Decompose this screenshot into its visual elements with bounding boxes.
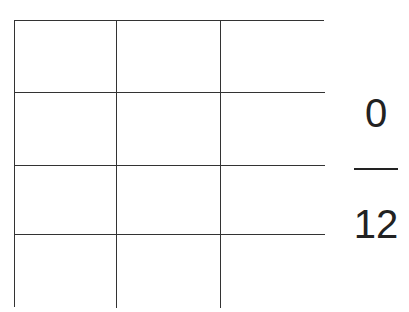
grid-cell-r2-c1 [15, 93, 117, 166]
fraction-grid [14, 20, 324, 307]
grid-cell-r4-c2 [117, 235, 221, 308]
grid-cell-r3-c3 [221, 166, 325, 235]
grid-cell-r1-c3 [221, 21, 325, 93]
fraction-bar [354, 168, 398, 170]
fraction-label: 0 12 [350, 88, 402, 248]
fraction-numerator: 0 [350, 93, 402, 133]
fraction-denominator: 12 [350, 204, 402, 244]
grid-cell-r3-c1 [15, 166, 117, 235]
grid-cell-r4-c1 [15, 235, 117, 308]
grid-cell-r1-c1 [15, 21, 117, 93]
grid-cell-r2-c3 [221, 93, 325, 166]
grid-cell-r4-c3 [221, 235, 325, 308]
grid-cell-r1-c2 [117, 21, 221, 93]
grid-cell-r3-c2 [117, 166, 221, 235]
grid-cell-r2-c2 [117, 93, 221, 166]
